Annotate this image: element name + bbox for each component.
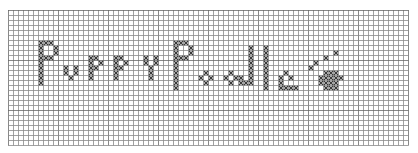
cross-stitch-icon <box>334 76 338 80</box>
cross-stitch-icon <box>229 71 233 75</box>
cross-stitch-icon <box>174 71 178 75</box>
cross-stitch-icon <box>174 41 178 45</box>
cross-stitch-icon <box>114 61 118 65</box>
cross-stitch-icon <box>174 76 178 80</box>
cross-stitch-icon <box>114 71 118 75</box>
cross-stitch-grid <box>8 10 409 146</box>
cross-stitch-icon <box>184 56 188 60</box>
cross-stitch-icon <box>329 71 333 75</box>
cross-stitch-icon <box>64 71 68 75</box>
cross-stitch-icon <box>339 76 343 80</box>
cross-stitch-icon <box>324 81 328 85</box>
cross-stitch-icon <box>224 76 228 80</box>
cross-stitch-icon <box>189 51 193 55</box>
cross-stitch-icon <box>189 46 193 50</box>
cross-stitch-icon <box>264 56 268 60</box>
cross-stitch-icon <box>249 61 253 65</box>
cross-stitch-icon <box>204 81 208 85</box>
cross-stitch-icon <box>149 71 153 75</box>
cross-stitch-icon <box>39 61 43 65</box>
cross-stitch-icon <box>264 51 268 55</box>
cross-stitch-icon <box>264 76 268 80</box>
cross-stitch-icon <box>39 51 43 55</box>
cross-stitch-icon <box>39 41 43 45</box>
cross-stitch-icon <box>179 56 183 60</box>
cross-stitch-icon <box>89 61 93 65</box>
cross-stitch-icon <box>39 81 43 85</box>
cross-stitch-icon <box>99 61 103 65</box>
cross-stitch-icon <box>264 86 268 90</box>
cross-stitch-icon <box>249 71 253 75</box>
cross-stitch-icon <box>324 76 328 80</box>
cross-stitch-icon <box>334 71 338 75</box>
cross-stitch-icon <box>119 56 123 60</box>
cross-stitch-icon <box>334 86 338 90</box>
cross-stitch-icon <box>119 66 123 70</box>
cross-stitch-icon <box>114 66 118 70</box>
cross-stitch-icon <box>89 66 93 70</box>
pattern-canvas <box>8 10 409 146</box>
cross-stitch-icon <box>334 51 338 55</box>
cross-stitch-icon <box>64 66 68 70</box>
cross-stitch-icon <box>284 71 288 75</box>
cross-stitch-icon <box>89 76 93 80</box>
cross-stitch-icon <box>234 76 238 80</box>
cross-stitch-icon <box>249 56 253 60</box>
cross-stitch-icon <box>154 61 158 65</box>
cross-stitch-icon <box>329 81 333 85</box>
cross-stitch-icon <box>324 86 328 90</box>
cross-stitch-icon <box>49 41 53 45</box>
cross-stitch-icon <box>289 76 293 80</box>
cross-stitch-icon <box>239 76 243 80</box>
cross-stitch-icon <box>329 86 333 90</box>
cross-stitch-icon <box>174 46 178 50</box>
cross-stitch-icon <box>39 71 43 75</box>
cross-stitch-icon <box>294 86 298 90</box>
cross-stitch-icon <box>174 51 178 55</box>
cross-stitch-icon <box>39 46 43 50</box>
cross-stitch-icon <box>324 56 328 60</box>
cross-stitch-icon <box>334 81 338 85</box>
cross-stitch-icon <box>54 51 58 55</box>
cross-stitch-icon <box>309 66 313 70</box>
cross-stitch-icon <box>324 71 328 75</box>
cross-stitch-icon <box>174 56 178 60</box>
cross-stitch-icon <box>289 86 293 90</box>
cross-stitch-icon <box>44 41 48 45</box>
cross-stitch-icon <box>264 81 268 85</box>
cross-stitch-icon <box>319 76 323 80</box>
cross-stitch-icon <box>249 66 253 70</box>
cross-stitch-icon <box>319 81 323 85</box>
cross-stitch-icon <box>49 56 53 60</box>
cross-stitch-icon <box>279 86 283 90</box>
cross-stitch-icon <box>229 81 233 85</box>
cross-stitch-icon <box>74 66 78 70</box>
cross-stitch-icon <box>39 66 43 70</box>
cross-stitch-icon <box>249 51 253 55</box>
cross-stitch-icon <box>44 56 48 60</box>
cross-stitch-icon <box>69 76 73 80</box>
cross-stitch-icon <box>264 61 268 65</box>
cross-stitch-icon <box>264 71 268 75</box>
cross-stitch-icon <box>199 76 203 80</box>
cross-stitch-icon <box>89 71 93 75</box>
cross-stitch-icon <box>249 81 253 85</box>
cross-stitch-icon <box>94 56 98 60</box>
cross-stitch-icon <box>174 66 178 70</box>
cross-stitch-icon <box>279 81 283 85</box>
cross-stitch-icon <box>184 41 188 45</box>
cross-stitch-icon <box>329 76 333 80</box>
cross-stitch-icon <box>149 66 153 70</box>
cross-stitch-icon <box>174 86 178 90</box>
cross-stitch-icon <box>284 86 288 90</box>
cross-stitch-icon <box>249 46 253 50</box>
cross-stitch-icon <box>264 66 268 70</box>
cross-stitch-icon <box>204 71 208 75</box>
cross-stitch-icon <box>179 41 183 45</box>
cross-stitch-icon <box>239 81 243 85</box>
cross-stitch-icon <box>114 76 118 80</box>
cross-stitch-icon <box>124 61 128 65</box>
cross-stitch-icon <box>314 61 318 65</box>
cross-stitch-icon <box>154 56 158 60</box>
cross-stitch-icon <box>174 81 178 85</box>
